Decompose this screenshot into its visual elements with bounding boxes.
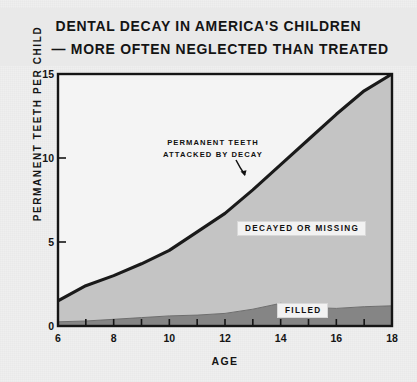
annotation-line-1: PERMANENT TEETH	[167, 138, 259, 147]
figure-caption	[0, 368, 417, 382]
x-tick-label-6: 6	[43, 332, 73, 344]
dental-decay-chart-figure: DENTAL DECAY IN AMERICA'S CHILDREN — MOR…	[0, 0, 417, 382]
band-label-decayed-or-missing: DECAYED OR MISSING	[237, 221, 366, 236]
y-tick-label-0: 0	[20, 320, 54, 332]
annotation-line-2: ATTACKED BY DECAY	[163, 150, 263, 159]
y-axis-tick-labels: 051015	[18, 0, 54, 382]
x-tick-label-14: 14	[266, 332, 296, 344]
plot-area	[0, 0, 417, 382]
x-axis-title: AGE	[58, 355, 392, 367]
band-label-filled: FILLED	[277, 303, 328, 318]
y-tick-label-15: 15	[20, 68, 54, 80]
x-axis-tick-labels: 681012141618	[0, 332, 417, 352]
y-tick-label-10: 10	[20, 152, 54, 164]
y-tick-label-5: 5	[20, 236, 54, 248]
x-tick-label-10: 10	[154, 332, 184, 344]
x-tick-label-18: 18	[377, 332, 407, 344]
x-tick-label-8: 8	[99, 332, 129, 344]
annotation-permanent-teeth-attacked-by-decay: PERMANENT TEETH ATTACKED BY DECAY	[163, 137, 263, 161]
x-tick-label-16: 16	[321, 332, 351, 344]
x-tick-label-12: 12	[210, 332, 240, 344]
